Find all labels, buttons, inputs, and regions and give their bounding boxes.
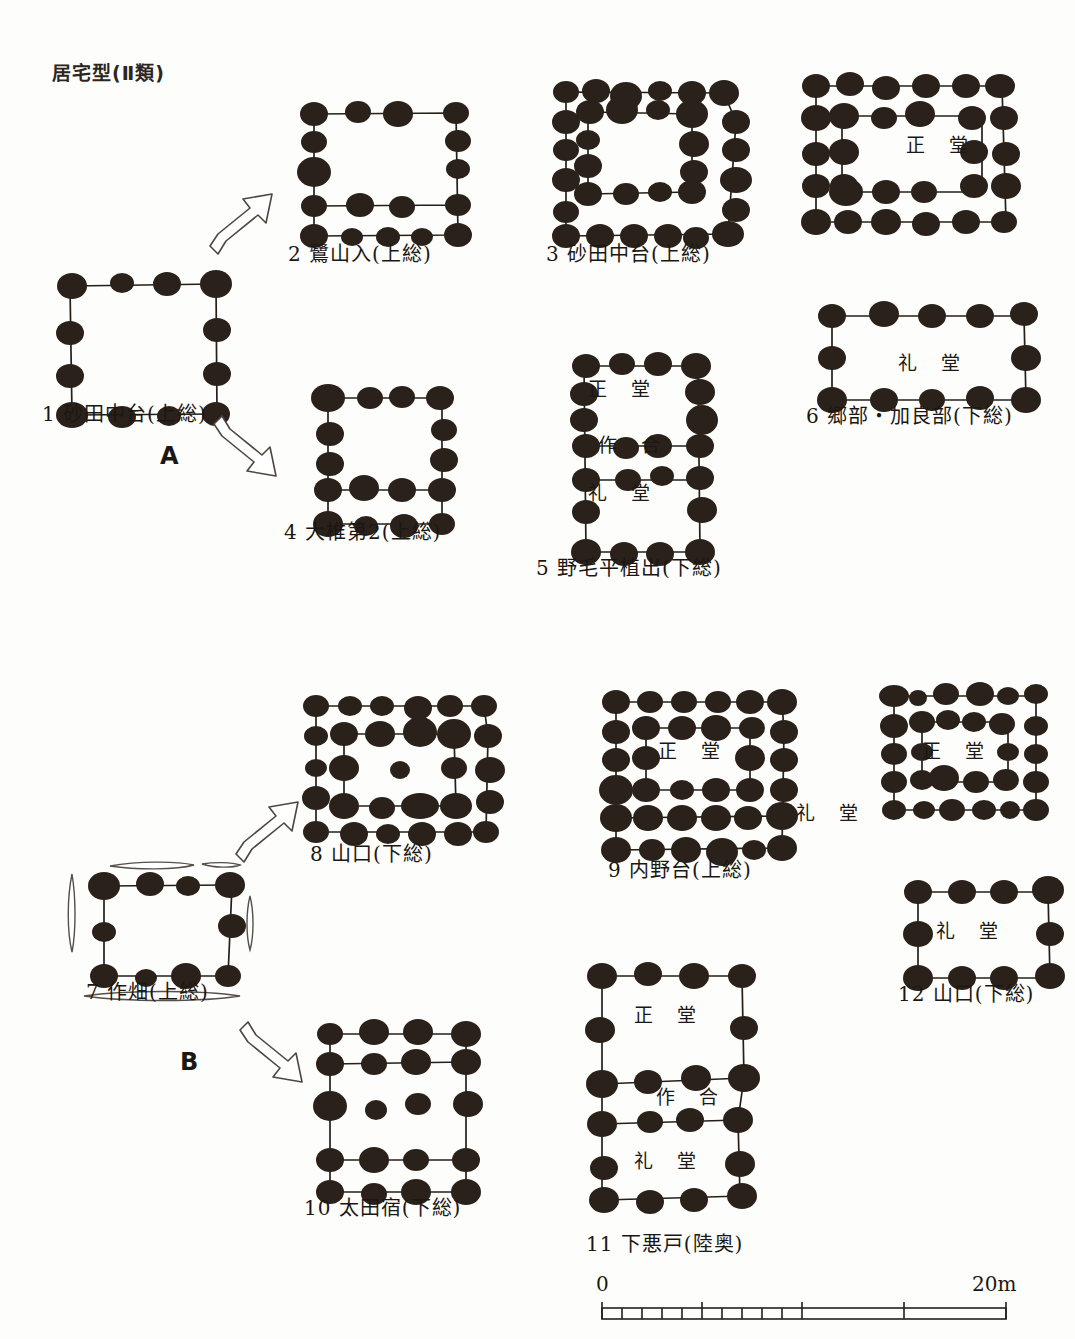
figure-title: 居宅型(Ⅱ類) [52,58,165,85]
scale-label-left: 0 [596,1272,609,1296]
plan-9-caption: 9 内野台(上総) [608,854,752,883]
plan-11-room-raido: 礼 堂 [634,1146,705,1173]
center-post [365,1100,387,1120]
plan-2 [292,90,482,255]
plan-5-room-shodo: 正 堂 [588,374,659,401]
arrow-down-right-a [200,412,290,496]
arrow-down-right-b [226,1018,316,1102]
plan-10 [310,1014,490,1214]
scale-bar [600,1300,1010,1334]
plan-6-room-raido: 礼 堂 [898,348,969,375]
plan-12-caption: 12 山口(下総) [898,978,1034,1007]
plan-6-room-shodo: 正 堂 [906,130,977,157]
plan-5-room-raido: 礼 堂 [588,478,659,505]
plan-8-caption: 8 山口(下総) [310,838,433,867]
plan-12-room-raido: 礼 堂 [936,916,1007,943]
plan-3-caption: 3 砂田中台(上総) [546,238,711,267]
plan-9-room-raido: 礼 堂 [796,798,867,825]
plan-7-caption: 7 作畑(上総) [86,976,209,1005]
arrow-up-right-a [196,178,286,262]
plan-2-caption: 2 鷺山入(上総) [288,238,432,267]
plan-11-room-shodo: 正 堂 [634,1000,705,1027]
group-label-b: B [180,1048,198,1076]
scale-label-right: 20m [972,1272,1016,1296]
center-post [390,761,410,779]
plan-3 [548,72,758,257]
plan-5-caption: 5 野毛平植出(下総) [536,552,722,581]
plan-4-caption: 4 大椎第2(上総) [284,516,441,545]
plan-11-room-sakuai: 作 合 [656,1082,727,1109]
plan-1-caption: 1 砂田中台(上総) [42,398,207,427]
group-label-a: A [160,442,179,470]
plan-11-caption: 11 下悪戸(陸奥) [586,1228,743,1257]
plan-9-room-shodo: 正 堂 [658,736,729,763]
plan-9 [596,682,806,872]
plan-12-room-shodo: 正 堂 [922,736,993,763]
plan-10-caption: 10 太田宿(下総) [304,1192,461,1221]
center-post [405,1093,431,1115]
figure-page: 居宅型(Ⅱ類) 1 砂田中台(上総) A [0,0,1075,1339]
plan-5-room-sakuai: 作 合 [598,430,669,457]
plan-6-caption: 6 郷部・加良部(下総) [806,400,1013,429]
